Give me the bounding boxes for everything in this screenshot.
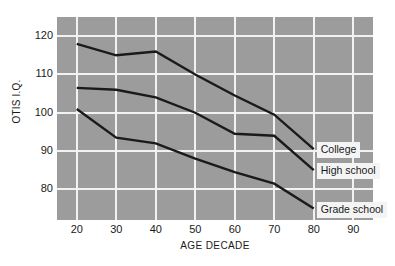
x-axis-title: AGE DECADE xyxy=(57,240,373,251)
x-axis-tick-labels: 2030405060708090 xyxy=(57,223,373,239)
y-tick-label-120: 120 xyxy=(5,30,53,41)
y-tick-label-100: 100 xyxy=(5,107,53,118)
x-tick-label-40: 40 xyxy=(136,223,176,235)
y-tick-label-90: 90 xyxy=(5,145,53,156)
y-tick-label-80: 80 xyxy=(5,183,53,194)
x-tick-label-80: 80 xyxy=(294,223,334,235)
x-tick-label-20: 20 xyxy=(57,223,97,235)
x-tick-label-90: 90 xyxy=(333,223,373,235)
series-label-college: College xyxy=(317,142,361,158)
x-tick-label-30: 30 xyxy=(96,223,136,235)
series-label-high-school: High school xyxy=(317,163,380,179)
y-tick-label-110: 110 xyxy=(5,68,53,79)
y-axis-tick-labels: 8090100110120 xyxy=(0,17,53,220)
series-label-grade-school: Grade school xyxy=(317,202,387,218)
series-line-grade-school xyxy=(77,109,314,209)
x-tick-label-60: 60 xyxy=(215,223,255,235)
x-tick-label-70: 70 xyxy=(254,223,294,235)
series-lines xyxy=(57,17,373,220)
otis-iq-by-age-decade-line-chart: OTIS I.Q. 8090100110120 CollegeHigh scho… xyxy=(0,0,395,266)
plot-area xyxy=(57,17,373,220)
x-tick-label-50: 50 xyxy=(175,223,215,235)
